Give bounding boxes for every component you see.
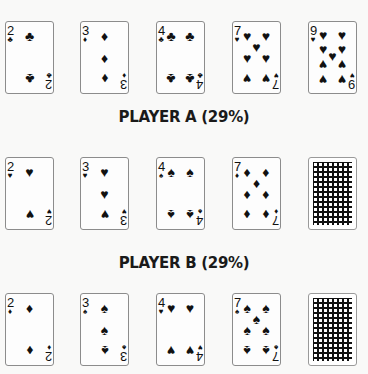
hearts-icon: ♥ [100,165,108,179]
playing-card: 7♠7♠♠♠♠♠♠♠♠ [232,293,281,366]
spades-icon: ♠ [198,207,202,215]
hearts-icon: ♥ [243,51,251,65]
spades-icon: ♠ [262,344,269,358]
diamonds-icon: ♦ [47,343,51,351]
spades-icon: ♠ [122,343,126,351]
player-a-row: 2♥2♥♥♥3♥3♥♥♥♥4♠4♠♠♠♠♠7♦7♦♦♦♦♦♦♦♦ [0,157,368,232]
diamonds-icon: ♦ [244,187,251,201]
hearts-icon: ♥ [186,344,194,358]
player-a-label: PLAYER A (29%) [0,108,368,126]
clubs-icon: ♣ [7,36,12,44]
hearts-icon: ♥ [25,165,33,179]
diamonds-icon: ♦ [26,344,33,358]
hearts-icon: ♥ [338,58,346,72]
clubs-icon: ♣ [158,36,163,44]
hearts-icon: ♥ [319,73,327,87]
card-corner-index: 7♠ [234,296,240,316]
diamonds-icon: ♦ [262,187,269,201]
playing-card: 2♣2♣♣♣ [5,21,54,94]
card-corner-index: 4♠ [197,207,203,227]
clubs-icon: ♣ [197,71,202,79]
card-corner-index: 7♠ [273,343,279,363]
card-corner-index: 9♥ [349,71,355,91]
diamonds-icon: ♦ [101,72,108,86]
playing-card: 7♥7♥♥♥♥♥♥♥♥ [232,21,281,94]
playing-card: 7♦7♦♦♦♦♦♦♦♦ [232,157,281,230]
hearts-icon: ♥ [338,28,346,42]
spades-icon: ♠ [186,165,193,179]
playing-card: 4♥4♥♥♥♥♥ [156,293,205,366]
player-b-row: 2♦2♦♦♦3♠3♠♠♠♠4♥4♥♥♥♥♥7♠7♠♠♠♠♠♠♠♠ [0,293,368,368]
playing-card: 4♠4♠♠♠♠♠ [156,157,205,230]
spades-icon: ♠ [186,208,193,222]
diamonds-icon: ♦ [8,308,12,316]
clubs-icon: ♣ [185,29,194,43]
spades-icon: ♠ [243,301,250,315]
hearts-icon: ♥ [198,343,203,351]
card-corner-index: 7♦ [273,207,279,227]
hearts-icon: ♥ [243,72,251,86]
hearts-icon: ♥ [47,207,52,215]
spades-icon: ♠ [274,343,278,351]
hearts-icon: ♥ [350,71,355,79]
hearts-icon: ♥ [262,51,270,65]
card-corner-index: 2♥ [7,160,13,180]
spades-icon: ♠ [262,301,269,315]
hearts-icon: ♥ [100,208,108,222]
card-back [308,157,357,230]
diamonds-icon: ♦ [274,207,278,215]
card-corner-index: 4♥ [158,296,164,316]
card-corner-index: 4♥ [197,343,203,363]
card-corner-index: 9♥ [310,24,316,44]
hearts-icon: ♥ [319,42,327,56]
card-corner-index: 7♥ [273,71,279,91]
spades-icon: ♠ [101,323,108,337]
hearts-icon: ♥ [100,187,108,201]
hearts-icon: ♥ [243,29,251,43]
hearts-icon: ♥ [319,58,327,72]
spades-icon: ♠ [167,208,174,222]
hearts-icon: ♥ [274,71,279,79]
hearts-icon: ♥ [319,28,327,42]
hearts-icon: ♥ [167,344,175,358]
board-row: 2♣2♣♣♣3♦3♦♦♦♦4♣4♣♣♣♣♣7♥7♥♥♥♥♥♥♥♥9♥9♥♥♥♥♥… [0,21,368,96]
playing-card: 4♣4♣♣♣♣♣ [156,21,205,94]
card-corner-index: 7♥ [234,24,240,44]
clubs-icon: ♣ [167,29,176,43]
card-corner-index: 2♣ [46,71,52,91]
player-b-label: PLAYER B (29%) [0,254,368,272]
hearts-icon: ♥ [167,301,175,315]
card-back [308,293,357,366]
card-corner-index: 2♥ [46,207,52,227]
clubs-icon: ♣ [185,72,194,86]
diamonds-icon: ♦ [101,29,108,43]
hearts-icon: ♥ [328,49,336,63]
hearts-icon: ♥ [262,29,270,43]
spades-icon: ♠ [83,308,87,316]
card-corner-index: 2♦ [7,296,13,316]
playing-card: 2♥2♥♥♥ [5,157,54,230]
card-back-pattern [313,298,352,361]
spades-icon: ♠ [167,165,174,179]
playing-card: 3♠3♠♠♠♠ [80,293,129,366]
clubs-icon: ♣ [46,71,51,79]
playing-card: 9♥9♥♥♥♥♥♥♥♥♥♥ [308,21,357,94]
hearts-icon: ♥ [338,73,346,87]
card-corner-index: 4♣ [158,24,164,44]
card-corner-index: 2♦ [46,343,52,363]
diamonds-icon: ♦ [244,208,251,222]
spades-icon: ♠ [101,344,108,358]
diamonds-icon: ♦ [262,165,269,179]
clubs-icon: ♣ [25,29,34,43]
diamonds-icon: ♦ [235,172,239,180]
diamonds-icon: ♦ [262,208,269,222]
hearts-icon: ♥ [8,172,13,180]
card-corner-index: 4♣ [197,71,203,91]
hearts-icon: ♥ [25,208,33,222]
hearts-icon: ♥ [83,172,88,180]
diamonds-icon: ♦ [122,71,126,79]
hearts-icon: ♥ [311,36,316,44]
spades-icon: ♠ [243,344,250,358]
spades-icon: ♠ [235,308,239,316]
spades-icon: ♠ [159,172,163,180]
